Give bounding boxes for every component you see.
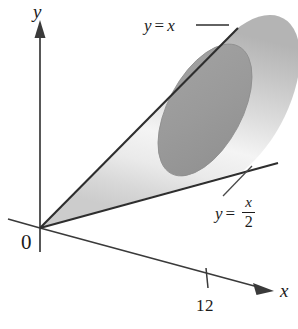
- fraction-denominator: 2: [243, 214, 255, 231]
- x-axis-label: x: [280, 281, 288, 300]
- origin-label: 0: [21, 232, 32, 253]
- y-axis-label: y: [33, 2, 41, 21]
- annotation-upper-rhs: x: [167, 16, 175, 35]
- annotation-lower-equals: =: [226, 205, 236, 222]
- x-axis-arrowhead: [253, 283, 274, 295]
- x-axis-tick-label-12: 12: [196, 297, 214, 314]
- fraction-numerator: x: [243, 195, 254, 211]
- x-axis-line: [40, 228, 258, 287]
- annotation-lower-lhs: y: [215, 205, 223, 222]
- y-axis-arrowhead: [35, 20, 46, 38]
- cone-solid: [40, 15, 298, 228]
- annotation-y-equals-x: y=x: [144, 17, 175, 34]
- cone-diagram-figure: y x 0 12 y=x y= x 2: [0, 0, 298, 329]
- annotation-y-equals-x-over-2: y= x 2: [215, 196, 255, 232]
- annotation-upper-equals: =: [155, 16, 165, 35]
- x-axis-tick-12: [206, 268, 208, 288]
- diagram-canvas: [0, 0, 298, 329]
- z-axis-stub: [8, 219, 40, 228]
- annotation-upper-lhs: y: [144, 16, 152, 35]
- annotation-lower-fraction: x 2: [242, 195, 255, 231]
